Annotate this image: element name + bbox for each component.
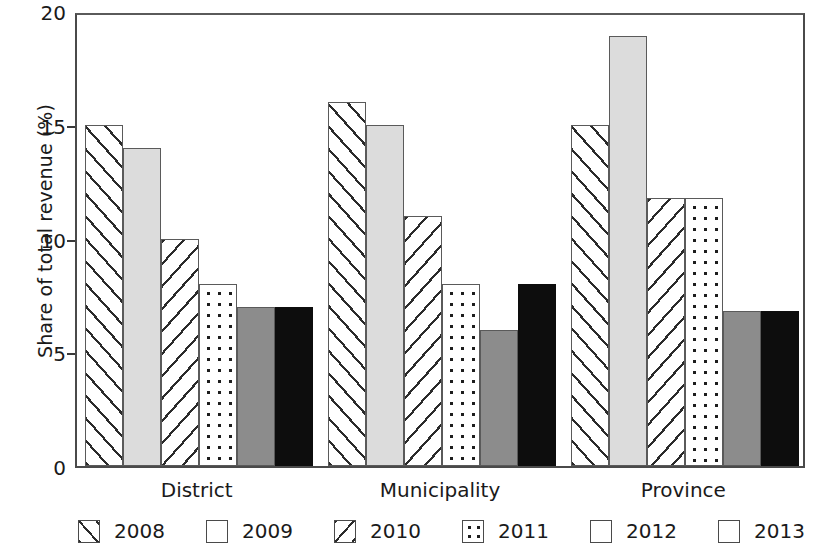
y-axis-tick-label: 10: [20, 229, 66, 253]
bar-province-2010: [647, 198, 685, 466]
legend-item-2008[interactable]: 2008: [78, 515, 165, 547]
legend-label-2009: 2009: [242, 519, 293, 543]
legend-item-2013[interactable]: 2013: [718, 515, 805, 547]
legend-item-2010[interactable]: 2010: [334, 515, 421, 547]
bar-province-2011: [685, 198, 723, 466]
plot-area: [75, 13, 805, 468]
bar-municipality-2008: [328, 102, 366, 466]
x-axis-label-district: District: [161, 478, 233, 502]
y-axis-tick-label: 20: [20, 1, 66, 25]
legend-swatch-2010: [334, 520, 356, 543]
bar-district-2010: [161, 239, 199, 467]
x-axis-label-municipality: Municipality: [380, 478, 500, 502]
legend-item-2009[interactable]: 2009: [206, 515, 293, 547]
y-axis-tick-label: 0: [20, 456, 66, 480]
bar-district-2011: [199, 284, 237, 466]
legend-item-2012[interactable]: 2012: [590, 515, 677, 547]
bar-province-2013: [761, 311, 799, 466]
legend-swatch-2011: [462, 520, 484, 543]
legend-label-2010: 2010: [370, 519, 421, 543]
bar-municipality-2009: [366, 125, 404, 466]
bar-district-2013: [275, 307, 313, 466]
bar-municipality-2012: [480, 330, 518, 467]
legend-swatch-2013: [718, 520, 740, 543]
y-axis-tick-mark: [67, 353, 75, 355]
x-axis-label-province: Province: [641, 478, 726, 502]
bar-province-2008: [571, 125, 609, 466]
y-axis-tick-labels: 05101520: [0, 0, 66, 480]
y-axis-tick-label: 15: [20, 115, 66, 139]
legend-item-2011[interactable]: 2011: [462, 515, 549, 547]
bar-district-2009: [123, 148, 161, 467]
bar-district-2008: [85, 125, 123, 466]
legend-label-2013: 2013: [754, 519, 805, 543]
y-axis-tick-mark: [67, 240, 75, 242]
bar-municipality-2011: [442, 284, 480, 466]
legend-label-2008: 2008: [114, 519, 165, 543]
legend-swatch-2009: [206, 520, 228, 543]
chart-legend: 200820092010201120122013: [0, 515, 825, 550]
bar-province-2009: [609, 36, 647, 466]
bar-district-2012: [237, 307, 275, 466]
legend-swatch-2012: [590, 520, 612, 543]
bar-province-2012: [723, 311, 761, 466]
plot-inner: [77, 15, 803, 466]
bar-municipality-2010: [404, 216, 442, 466]
legend-label-2011: 2011: [498, 519, 549, 543]
bar-municipality-2013: [518, 284, 556, 466]
legend-label-2012: 2012: [626, 519, 677, 543]
bar-chart-figure: Share of total revenue (%) 05101520 Dist…: [0, 0, 825, 550]
y-axis-tick-mark: [67, 126, 75, 128]
legend-swatch-2008: [78, 520, 100, 543]
y-axis-tick-label: 5: [20, 342, 66, 366]
